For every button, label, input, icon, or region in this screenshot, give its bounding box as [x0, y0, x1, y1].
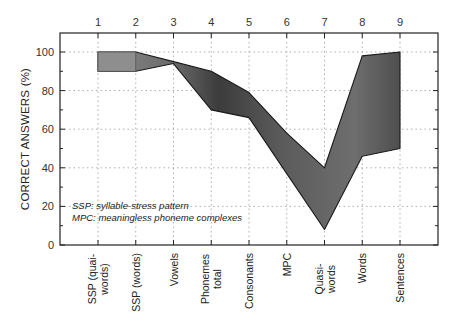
top-tick-label: 7 — [321, 16, 327, 28]
x-category-text: words) — [98, 263, 110, 296]
x-category-text: MPC — [281, 253, 293, 277]
y-axis-label: CORRECT ANSWERS (%) — [19, 68, 31, 210]
y-tick-label: 20 — [42, 200, 54, 212]
x-category-label: MPC — [281, 253, 293, 277]
x-category-label: Consonants — [243, 253, 255, 309]
x-category-text: Sentences — [394, 253, 406, 303]
y-tick-label: 0 — [48, 239, 54, 251]
x-category-label: SSP (words) — [130, 253, 142, 312]
x-category-label: Phonemestotal — [199, 254, 223, 304]
y-tick-label: 40 — [42, 162, 54, 174]
x-category-text: words — [325, 265, 337, 294]
range-band-first-segment — [98, 52, 136, 71]
range-band-chart: 020406080100 SSP (quai-words)SSP (words)… — [0, 0, 461, 324]
x-category-text: Quasi- — [313, 263, 325, 294]
annotation-ssp: SSP: syllable-stress pattern — [72, 200, 189, 211]
top-tick-label: 2 — [133, 16, 139, 28]
top-tick-label: 6 — [284, 16, 290, 28]
y-tick-label: 80 — [42, 85, 54, 97]
top-tick-label: 4 — [208, 16, 214, 28]
annotation-mpc: MPC: meaningless phoneme complexes — [72, 212, 242, 223]
x-category-text: Vowels — [168, 253, 180, 286]
top-tick-label: 3 — [170, 16, 176, 28]
top-tick-label: 5 — [246, 16, 252, 28]
top-tick-label: 1 — [95, 16, 101, 28]
y-tick-label: 100 — [36, 46, 54, 58]
x-category-label: Words — [356, 253, 368, 283]
x-category-text: Consonants — [243, 253, 255, 309]
top-axis: 123456789 — [95, 16, 403, 38]
x-axis: SSP (quai-words)SSP (words)VowelsPhoneme… — [86, 240, 406, 312]
x-category-label: Sentences — [394, 253, 406, 303]
x-category-text: SSP (quai- — [86, 253, 98, 304]
x-category-text: Phonemes — [199, 254, 211, 304]
x-category-label: SSP (quai-words) — [86, 253, 110, 304]
y-tick-label: 60 — [42, 123, 54, 135]
x-category-text: total — [211, 269, 223, 289]
top-tick-label: 9 — [397, 16, 403, 28]
x-category-text: SSP (words) — [130, 253, 142, 312]
top-tick-label: 8 — [359, 16, 365, 28]
x-category-label: Quasi-words — [313, 263, 337, 294]
x-category-text: Words — [356, 253, 368, 283]
x-category-label: Vowels — [168, 253, 180, 286]
